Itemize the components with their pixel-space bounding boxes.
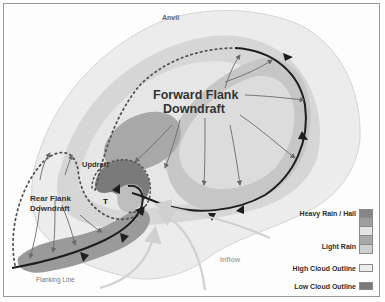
legend-rain-swatch-3 [359,227,373,236]
supercell-diagram: Anvil Forward Flank Downdraft Updraft Re… [0,0,385,302]
legend-rain-swatch-5 [359,245,373,254]
tornado-marker: T [103,197,108,206]
legend-high-cloud: High Cloud Outline [293,264,373,272]
legend-low-cloud-label: Low Cloud Outline [294,283,356,290]
legend-high-cloud-swatch [359,264,373,272]
legend-high-cloud-label: High Cloud Outline [293,265,356,272]
legend-light-rain-label: Light Rain [322,243,356,250]
flanking-line-label: Flanking Line [36,276,75,283]
legend-low-cloud-swatch [359,282,373,290]
forward-flank-label: Forward Flank Downdraft [153,88,238,116]
storm-map [0,0,385,302]
legend-low-cloud: Low Cloud Outline [294,282,373,290]
legend-rain-swatch-1 [359,209,373,218]
rear-flank-label-line1: Rear Flank [30,194,71,204]
legend-rain-swatch-4 [359,236,373,245]
legend-heavy-rain-label: Heavy Rain / Hail [300,210,356,217]
forward-flank-label-line1: Forward Flank [153,88,238,102]
rear-flank-label: Rear Flank Downdraft [30,194,71,214]
anvil-label: Anvil [162,14,179,21]
rear-flank-label-line2: Downdraft [30,204,71,214]
forward-flank-label-line2: Downdraft [153,102,238,116]
updraft-label: Updraft [82,160,109,169]
legend-rain-swatch-2 [359,218,373,227]
legend-rain-scale [359,209,373,254]
inflow-label: Inflow [220,256,240,263]
